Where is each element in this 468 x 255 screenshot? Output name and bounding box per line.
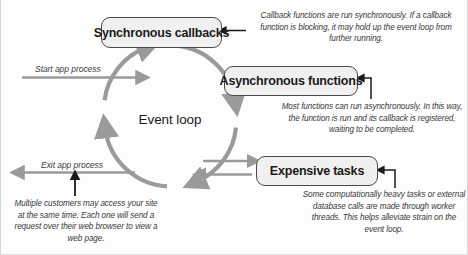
- loop-arc-bottom-left: [105, 129, 167, 186]
- node-expensive-tasks-label: Expensive tasks: [270, 164, 364, 178]
- node-synchronous-callbacks-label: Synchronous callbacks: [94, 26, 229, 40]
- node-expensive-tasks[interactable]: Expensive tasks: [256, 156, 378, 186]
- diagram-canvas: Synchronous callbacks Asynchronous funct…: [0, 0, 468, 255]
- annotation-exit-app-process: Multiple customers may access your site …: [12, 198, 160, 245]
- async-annotation-leader: [361, 78, 371, 99]
- annotation-expensive-tasks: Some computationally heavy tasks or exte…: [302, 189, 466, 236]
- loop-arc-left-top: [105, 48, 147, 101]
- edge-label-exit-app-process: Exit app process: [41, 160, 103, 170]
- node-asynchronous-functions-label: Asynchronous functions: [220, 74, 363, 88]
- event-loop-label: Event loop: [118, 112, 222, 127]
- annotation-synchronous-callbacks: Callback functions are run synchronously…: [248, 10, 464, 45]
- annotation-asynchronous-functions: Most functions can run asynchronously. I…: [280, 101, 464, 136]
- expensive-annotation-leader: [381, 170, 395, 188]
- node-synchronous-callbacks[interactable]: Synchronous callbacks: [101, 17, 222, 48]
- node-asynchronous-functions[interactable]: Asynchronous functions: [224, 66, 358, 96]
- edge-label-start-app-process: Start app process: [35, 64, 101, 74]
